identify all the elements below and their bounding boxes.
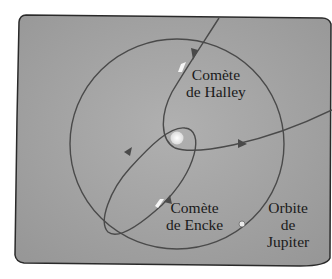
- jupiter-planet: [239, 221, 245, 227]
- jupiter-label-line2: de: [267, 216, 309, 233]
- jupiter-label-line3: Jupiter: [267, 233, 309, 250]
- jupiter-label: Orbite de Jupiter: [267, 199, 309, 250]
- sun: [171, 132, 184, 145]
- halley-label-line1: Comète: [186, 66, 246, 83]
- encke-label-line1: Comète: [166, 199, 223, 216]
- halley-label: Comète de Halley: [186, 66, 246, 100]
- encke-label-line2: de Encke: [166, 216, 223, 233]
- halley-label-line2: de Halley: [186, 83, 246, 100]
- solar-system-diagram: Comète de Halley Comète de Encke Orbite …: [0, 0, 332, 279]
- encke-label: Comète de Encke: [166, 199, 223, 233]
- jupiter-label-line1: Orbite: [267, 199, 309, 216]
